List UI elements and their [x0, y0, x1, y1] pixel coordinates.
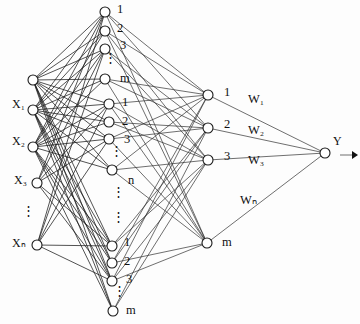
edge-input-hidden — [37, 183, 112, 246]
hidden2-label: 2 — [122, 114, 128, 128]
summation-label: 1 — [224, 85, 230, 99]
summation-node[interactable] — [203, 155, 213, 165]
summation-label: 2 — [224, 117, 230, 131]
edge-input-hidden — [37, 245, 112, 246]
summation-node[interactable] — [202, 238, 212, 248]
network-svg: X₁X₂X₃Xₙ⋮123m⋮123n⋮⋮⋮123m⋮123mW₁W₂W₃WₙY — [0, 0, 360, 324]
hidden3-ellipsis: ⋮ — [113, 283, 126, 298]
weight-label-w1: W₁ — [248, 92, 264, 106]
summation-label: 3 — [224, 149, 230, 163]
input-label: Xₙ — [12, 236, 26, 250]
hidden1-label: 1 — [117, 2, 123, 16]
edge-input-hidden — [37, 49, 105, 245]
edge-input-hidden — [33, 12, 105, 110]
hidden2-label: n — [128, 173, 135, 187]
hidden2-ellipsis: ⋮ — [110, 143, 123, 158]
hidden3-label: 2 — [124, 254, 130, 268]
edge-hidden-summation — [112, 160, 208, 170]
hidden1-label: 2 — [117, 21, 123, 35]
summation-node[interactable] — [203, 123, 213, 133]
edge-summation-output — [207, 153, 325, 243]
output-arrow-icon — [352, 151, 358, 159]
hidden1-node[interactable] — [100, 7, 110, 17]
output-label: Y — [333, 134, 342, 148]
all-nodes — [28, 7, 330, 316]
neural-network-diagram: X₁X₂X₃Xₙ⋮123m⋮123n⋮⋮⋮123m⋮123mW₁W₂W₃WₙY — [0, 0, 360, 324]
edge-input-hidden — [33, 110, 112, 263]
weight-label-w3: W₃ — [248, 153, 264, 167]
edges-hidden-to-summation — [105, 12, 208, 311]
input-node[interactable] — [28, 142, 38, 152]
weight-label-wn: Wₙ — [240, 193, 257, 207]
edge-hidden-summation — [105, 49, 208, 128]
hidden2-ellipsis: ⋮ — [112, 184, 125, 199]
input-label: X₁ — [12, 97, 25, 111]
hidden1-label: 3 — [120, 38, 126, 52]
summation-node[interactable] — [203, 90, 213, 100]
summation-label: m — [222, 235, 232, 249]
hidden1-ellipsis: ⋮ — [104, 50, 117, 65]
weight-label-w2: W₂ — [248, 123, 264, 137]
input-label: X₃ — [14, 173, 27, 187]
hidden1-label: m — [120, 71, 130, 85]
hidden2-node[interactable] — [104, 117, 114, 127]
hidden2-label: 3 — [124, 132, 130, 146]
hidden3-node[interactable] — [108, 306, 118, 316]
edges-input-to-hidden — [33, 12, 113, 311]
edge-hidden-summation — [112, 170, 207, 243]
output-node[interactable] — [320, 148, 330, 158]
hidden2-node[interactable] — [107, 165, 117, 175]
edge-input-hidden — [33, 49, 105, 80]
hidden3-label: 1 — [124, 235, 130, 249]
edge-input-hidden — [33, 147, 112, 246]
input-label: X₂ — [12, 134, 25, 148]
hidden2-ellipsis: ⋮ — [112, 209, 125, 224]
hidden3-label: m — [126, 303, 136, 317]
input-node[interactable] — [28, 105, 38, 115]
hidden3-label: 3 — [126, 272, 132, 286]
edge-input-hidden — [37, 245, 112, 281]
input-ellipsis: ⋮ — [22, 203, 35, 218]
hidden1-node[interactable] — [100, 26, 110, 36]
input-node[interactable] — [32, 240, 42, 250]
hidden2-label: 1 — [122, 95, 128, 109]
hidden2-node[interactable] — [104, 99, 114, 109]
input-node[interactable] — [28, 75, 38, 85]
hidden1-node[interactable] — [100, 74, 110, 84]
input-node[interactable] — [32, 178, 42, 188]
hidden3-node[interactable] — [107, 258, 117, 268]
hidden3-node[interactable] — [107, 241, 117, 251]
